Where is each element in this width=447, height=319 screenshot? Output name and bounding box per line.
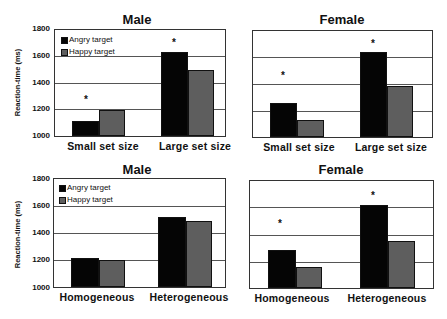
- panel-male-set-size: Male Reaction-time (ms) 1800 1600 1400 1…: [0, 0, 224, 160]
- chart-title: Male: [54, 162, 220, 177]
- y-tick: 1800: [24, 175, 50, 183]
- bar-angry-homogeneous: [268, 250, 296, 288]
- chart-title: Female: [252, 12, 432, 27]
- y-tick: 1000: [24, 132, 50, 140]
- legend-label-angry: Angry target: [69, 34, 113, 46]
- bar-happy-homogeneous: [296, 267, 322, 288]
- panel-male-homogeneity: Male Reaction-time (ms) 1800 1600 1400 1…: [0, 160, 224, 319]
- bar-angry-small: [270, 103, 297, 137]
- legend-label-angry: Angry target: [67, 182, 111, 194]
- legend-swatch-angry: [61, 37, 68, 44]
- x-category-label: Large set size: [346, 141, 436, 153]
- x-category-label: Homogeneous: [247, 292, 337, 304]
- plot-area: * *: [249, 180, 434, 289]
- significance-star: *: [368, 39, 378, 49]
- bar-angry-large: [360, 52, 387, 137]
- x-category-label: Small set size: [58, 140, 148, 152]
- gridline: [250, 207, 433, 208]
- plot-area: * *: [252, 30, 433, 138]
- plot-area: * * Angry target Happy target: [54, 29, 226, 137]
- legend: Angry target Happy target: [59, 182, 113, 206]
- panel-female-set-size: Female * * Small set size Large set size: [224, 0, 447, 160]
- chart-title: Female: [249, 162, 433, 177]
- bar-happy-small: [297, 120, 324, 137]
- significance-star: *: [278, 71, 288, 81]
- legend-swatch-happy: [61, 49, 68, 56]
- y-axis-label: Reaction-time (ms): [13, 190, 22, 280]
- bar-happy-large: [188, 70, 214, 136]
- significance-star: *: [368, 191, 378, 201]
- legend-swatch-happy: [59, 197, 66, 204]
- x-category-label: Small set size: [254, 141, 344, 153]
- bar-angry-large: [161, 52, 188, 136]
- plot-area: Angry target Happy target: [53, 178, 226, 288]
- y-tick: 1400: [24, 229, 50, 237]
- x-category-label: Heterogeneous: [342, 292, 432, 304]
- y-tick: 1400: [24, 79, 50, 87]
- bar-happy-large: [387, 86, 413, 137]
- y-tick: 1600: [24, 52, 50, 60]
- significance-star: *: [169, 38, 179, 48]
- legend: Angry target Happy target: [61, 34, 115, 58]
- legend-swatch-angry: [59, 185, 66, 192]
- bar-angry-homogeneous: [71, 258, 99, 287]
- bar-happy-homogeneous: [99, 260, 125, 287]
- y-tick: 1000: [24, 284, 50, 292]
- significance-star: *: [81, 95, 91, 105]
- gridline: [250, 235, 433, 236]
- bar-angry-small: [72, 121, 99, 136]
- y-axis-label: Reaction-time (ms): [13, 38, 22, 128]
- y-tick: 1200: [24, 105, 50, 113]
- bar-happy-heterogeneous: [186, 221, 212, 287]
- significance-star: *: [275, 219, 285, 229]
- bar-happy-small: [99, 110, 125, 136]
- gridline: [54, 206, 225, 207]
- bar-angry-heterogeneous: [360, 205, 388, 288]
- y-tick: 1800: [24, 25, 50, 33]
- chart-title: Male: [54, 12, 220, 27]
- bar-happy-heterogeneous: [388, 241, 415, 288]
- legend-label-happy: Happy target: [67, 194, 113, 206]
- x-category-label: Homogeneous: [52, 291, 142, 303]
- gridline: [253, 57, 432, 58]
- x-category-label: Heterogeneous: [144, 291, 234, 303]
- bar-angry-heterogeneous: [158, 217, 186, 287]
- y-tick: 1600: [24, 202, 50, 210]
- gridline: [253, 84, 432, 85]
- legend-label-happy: Happy target: [69, 46, 115, 58]
- panel-female-homogeneity: Female * * Homogeneous Heterogeneous: [224, 160, 447, 319]
- y-tick: 1200: [24, 256, 50, 264]
